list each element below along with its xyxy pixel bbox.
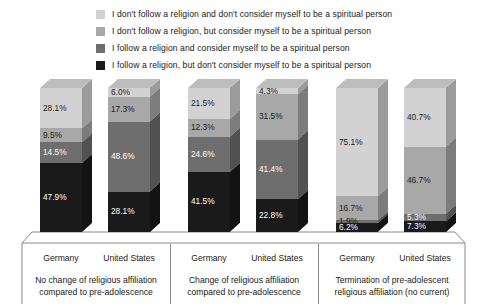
bar-segment[interactable]: 14.5% [40, 142, 82, 163]
bar-segment[interactable]: 12.3% [188, 119, 230, 137]
bar-segment[interactable]: 24.6% [188, 137, 230, 172]
segment-value-label: 6.0% [111, 88, 151, 96]
country-label-1: United States [94, 253, 164, 263]
segment-value-label: 28.1% [111, 207, 151, 215]
group-caption-line1: No change of religious affiliation [24, 275, 168, 287]
bar-segment[interactable]: 48.6% [108, 122, 150, 192]
bar-germany-0[interactable]: 28.1%9.5%14.5%47.9% [40, 88, 82, 232]
segment-value-label: 75.1% [339, 138, 379, 146]
country-label-0: Germany [26, 253, 96, 263]
bar-segment[interactable]: 31.5% [256, 94, 298, 139]
group-caption-2: Termination of pre-adolescentreligious a… [320, 275, 464, 298]
segment-value-label: 41.5% [191, 197, 231, 205]
segment-value-label: 28.1% [43, 104, 83, 112]
bar-segment[interactable]: 40.7% [404, 88, 446, 147]
bar-segment[interactable]: 28.1% [40, 88, 82, 128]
bar-germany-4[interactable]: 75.1%16.7%1.9%6.2% [336, 88, 378, 232]
bar-segment[interactable]: 21.5% [188, 88, 230, 119]
group-caption-line2: compared to pre-adolescence [24, 287, 168, 299]
group-separator-2 [318, 244, 319, 304]
group-caption-line1: Change of religious affiliation [172, 275, 316, 287]
bar-united-states-1[interactable]: 6.0%17.3%48.6%28.1% [108, 88, 150, 232]
country-label-3: United States [242, 253, 312, 263]
group-separator-1 [170, 244, 171, 304]
segment-value-label: 22.8% [259, 211, 299, 219]
bar-segment[interactable]: 28.1% [108, 192, 150, 232]
group-caption-1: Change of religious affiliationcompared … [172, 275, 316, 298]
bar-segment[interactable]: 22.8% [256, 199, 298, 232]
bar-segment[interactable]: 46.7% [404, 147, 446, 214]
bar-segment[interactable]: 6.2% [336, 223, 378, 232]
segment-value-label: 46.7% [407, 176, 447, 184]
segment-value-label: 21.5% [191, 99, 231, 107]
segment-value-label: 24.6% [191, 150, 231, 158]
stacked-bar-chart: I don't follow a religion and don't cons… [0, 0, 477, 308]
bar-segment[interactable]: 41.4% [256, 140, 298, 200]
segment-value-label: 47.9% [43, 193, 83, 201]
bar-united-states-5[interactable]: 40.7%46.7%5.3%7.3% [404, 88, 446, 232]
bar-segment[interactable]: 6.0% [108, 88, 150, 97]
bar-segment[interactable]: 7.3% [404, 221, 446, 232]
segment-value-label: 5.3% [407, 213, 447, 221]
bar-segment[interactable]: 9.5% [40, 128, 82, 142]
bar-united-states-3[interactable]: 4.3%31.5%41.4%22.8% [256, 88, 298, 232]
segment-value-label: 48.6% [111, 152, 151, 160]
bar-germany-2[interactable]: 21.5%12.3%24.6%41.5% [188, 88, 230, 232]
group-caption-line2: religious affiliation (no current) [320, 287, 464, 299]
segment-value-label: 14.5% [43, 148, 83, 156]
group-caption-line1: Termination of pre-adolescent [320, 275, 464, 287]
segment-value-label: 40.7% [407, 113, 447, 121]
bar-segment[interactable]: 41.5% [188, 172, 230, 232]
segment-value-label: 16.7% [339, 204, 379, 212]
segment-value-label: 17.3% [111, 105, 151, 113]
country-label-5: United States [390, 253, 460, 263]
bar-segment[interactable]: 17.3% [108, 97, 150, 122]
segment-value-label: 31.5% [259, 112, 299, 120]
group-caption-line2: compared to pre-adolescence [172, 287, 316, 299]
segment-value-label: 41.4% [259, 165, 299, 173]
bar-segment[interactable]: 47.9% [40, 163, 82, 232]
bar-segment[interactable]: 75.1% [336, 88, 378, 196]
country-label-4: Germany [322, 253, 392, 263]
segment-value-label: 6.2% [339, 223, 379, 231]
segment-value-label: 12.3% [191, 123, 231, 131]
segment-value-label: 9.5% [43, 131, 83, 139]
segment-value-label: 7.3% [407, 222, 447, 230]
country-label-2: Germany [174, 253, 244, 263]
group-caption-0: No change of religious affiliationcompar… [24, 275, 168, 298]
